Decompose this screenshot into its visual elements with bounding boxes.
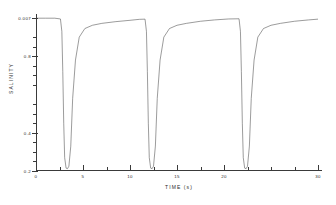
y-axis-major-tick xyxy=(32,171,38,172)
salinity-time-chart: 0.0070.40.80.2 0510152030 TIME (s) SALIN… xyxy=(0,0,336,205)
y-axis-tick-label: 0.4 xyxy=(24,130,31,135)
y-axis-tick-label: 0.007 xyxy=(18,16,31,21)
x-axis-major-tick xyxy=(318,165,319,171)
y-axis-title: SALINITY xyxy=(8,63,14,94)
x-axis-tick-label: 20 xyxy=(221,174,227,179)
x-axis-tick-label: 0 xyxy=(35,174,38,179)
x-axis-tick-label: 30 xyxy=(315,174,321,179)
y-axis-tick-label: 0.2 xyxy=(24,169,31,174)
x-axis-title: TIME (s) xyxy=(36,184,322,190)
salinity-curve-path xyxy=(36,18,318,169)
y-axis-tick-label: 0.8 xyxy=(24,54,31,59)
plot-area: 0.0070.40.80.2 0510152030 TIME (s) xyxy=(36,18,318,171)
x-axis-tick-label: 5 xyxy=(82,174,85,179)
x-axis-tick-label: 10 xyxy=(127,174,133,179)
salinity-curve xyxy=(36,18,318,171)
x-axis-tick-label: 15 xyxy=(174,174,180,179)
